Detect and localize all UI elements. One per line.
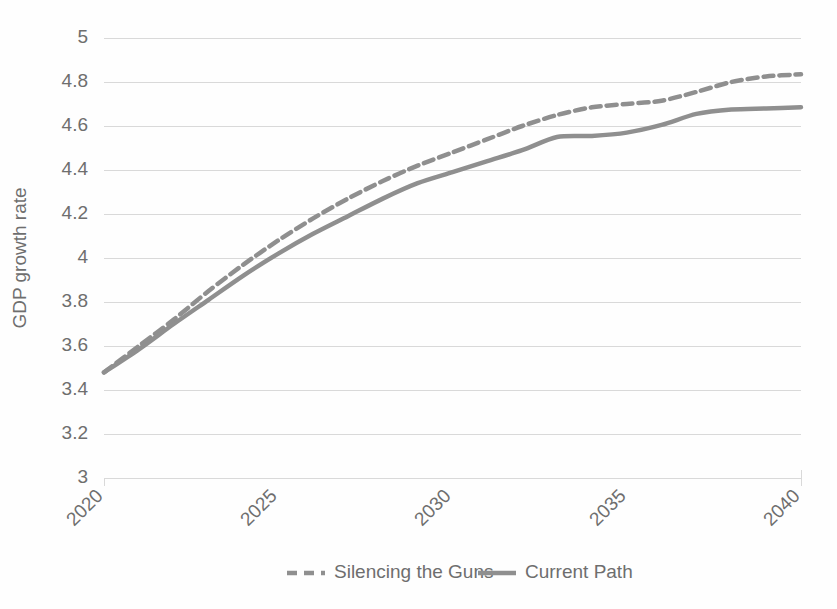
y-axis-title: GDP growth rate: [9, 187, 30, 328]
y-tick-label: 4.8: [62, 70, 88, 91]
y-tick-label: 5: [77, 26, 88, 47]
legend-label-current-path: Current Path: [525, 561, 633, 582]
series-line-current-path: [104, 107, 801, 372]
y-tick-label: 4.4: [62, 158, 89, 179]
x-tick-label: 2025: [236, 485, 281, 530]
y-tick-label: 3: [77, 466, 88, 487]
x-tick-label: 2020: [62, 485, 107, 530]
y-tick-label: 3.6: [62, 334, 88, 355]
x-axis-ticks: 2020 2025 2030 2035 2040: [62, 485, 804, 530]
y-tick-label: 4: [77, 246, 88, 267]
x-tick-label: 2035: [585, 485, 630, 530]
x-tick-label: 2040: [759, 485, 804, 530]
chart-figure: GDP growth rate 5 4.8 4.6 4.4 4.2 4 3.8 …: [0, 0, 837, 609]
gridlines: [104, 38, 801, 478]
y-tick-label: 3.2: [62, 422, 88, 443]
y-tick-label: 4.6: [62, 114, 88, 135]
y-tick-label: 3.8: [62, 290, 88, 311]
y-tick-label: 3.4: [62, 378, 89, 399]
plot-series: [104, 74, 801, 372]
line-chart: GDP growth rate 5 4.8 4.6 4.4 4.2 4 3.8 …: [0, 0, 837, 609]
series-line-silencing-the-guns: [104, 74, 801, 372]
x-tick-label: 2030: [410, 485, 455, 530]
legend-label-silencing-the-guns: Silencing the Guns: [334, 561, 494, 582]
y-axis-ticks: 5 4.8 4.6 4.4 4.2 4 3.8 3.6 3.4 3.2 3: [62, 26, 89, 487]
y-tick-label: 4.2: [62, 202, 88, 223]
chart-legend: Silencing the Guns Current Path: [287, 561, 633, 582]
